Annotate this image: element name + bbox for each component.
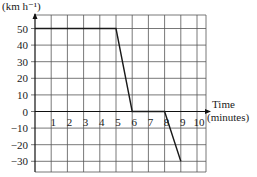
y-tick-label: 30	[17, 56, 29, 68]
x-axis-label-line2: (minutes)	[207, 111, 249, 124]
x-tick-label: 7	[148, 116, 154, 128]
y-tick-label: 10	[17, 89, 29, 101]
x-axis-label-line1: Time	[212, 98, 235, 110]
y-tick-label: −10	[11, 122, 29, 134]
y-tick-labels: 50403020100−10−20−30	[11, 23, 29, 168]
x-tick-labels: 12345678910	[50, 116, 205, 128]
y-tick-label: 40	[17, 39, 29, 51]
axes	[33, 13, 212, 172]
y-tick-label: 50	[17, 23, 29, 35]
x-tick-label: 9	[180, 116, 186, 128]
y-tick-label: −20	[11, 139, 29, 151]
x-tick-label: 5	[115, 116, 121, 128]
y-tick-label: −30	[11, 155, 29, 167]
y-axis-arrow-icon	[33, 13, 38, 19]
x-tick-label: 2	[67, 116, 73, 128]
x-tick-label: 3	[83, 116, 89, 128]
x-tick-label: 6	[131, 116, 137, 128]
y-tick-label: 20	[17, 72, 29, 84]
x-tick-label: 4	[99, 116, 105, 128]
velocity-time-chart: (km h⁻¹) 50403020100−10−20−30 1234567891…	[0, 0, 257, 177]
y-tick-label: 0	[23, 106, 29, 118]
y-axis-unit-label: (km h⁻¹)	[2, 0, 41, 13]
x-tick-label: 10	[194, 116, 206, 128]
x-tick-label: 1	[50, 116, 56, 128]
